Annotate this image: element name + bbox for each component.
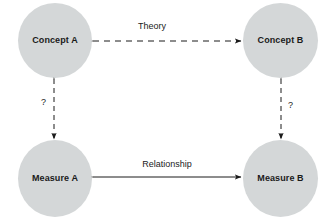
edge-label-left-validity: ? (41, 98, 46, 107)
diagram-canvas: Concept A Concept B Measure A Measure B … (0, 0, 332, 220)
node-measure-a-label: Measure A (32, 174, 78, 183)
edge-label-relationship: Relationship (142, 160, 192, 169)
node-concept-a: Concept A (18, 3, 92, 78)
node-measure-a: Measure A (18, 140, 92, 217)
node-concept-b: Concept B (243, 3, 318, 78)
node-measure-b-label: Measure B (257, 174, 303, 183)
edge-label-right-validity: ? (288, 101, 293, 110)
node-measure-b: Measure B (243, 140, 318, 217)
node-concept-b-label: Concept B (258, 36, 304, 45)
edge-label-theory: Theory (138, 22, 166, 31)
node-concept-a-label: Concept A (32, 36, 78, 45)
